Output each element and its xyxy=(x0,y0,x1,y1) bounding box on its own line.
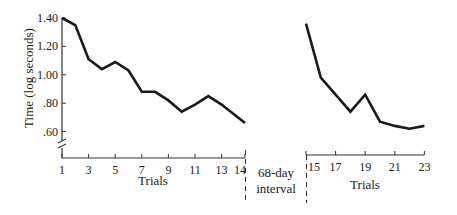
y-tick-label: 1.00 xyxy=(37,68,58,82)
x-tick-label: 23 xyxy=(418,160,430,174)
axis-break-mark xyxy=(58,144,66,148)
data-series xyxy=(62,18,424,129)
x-tick-label: 19 xyxy=(359,160,371,174)
chart: .60.801.001.201.4013579111314 1517192123… xyxy=(0,0,457,215)
x-axis-label-right: Trials xyxy=(350,177,380,192)
series-line-after xyxy=(306,24,424,129)
x-tick-label: 3 xyxy=(86,163,92,177)
x-tick-label: 21 xyxy=(389,160,401,174)
y-tick-label: .80 xyxy=(43,96,58,110)
right-axes: 1517192123 xyxy=(306,151,430,174)
x-tick-label: 1 xyxy=(59,163,65,177)
y-tick-label: 1.20 xyxy=(37,39,58,53)
x-tick-label: 17 xyxy=(330,160,342,174)
series-line-before xyxy=(62,18,245,123)
interval-label-line1: 68-day xyxy=(258,165,295,180)
y-axis-label: Time (log seconds) xyxy=(21,28,36,128)
x-tick-label: 14 xyxy=(234,163,246,177)
x-tick-label: 15 xyxy=(308,160,320,174)
x-tick-label: 11 xyxy=(189,163,201,177)
interval-label-line2: interval xyxy=(256,181,296,196)
left-axes: .60.801.001.201.4013579111314 xyxy=(37,11,246,177)
y-tick-label: .60 xyxy=(43,125,58,139)
x-tick-label: 13 xyxy=(216,163,228,177)
y-tick-label: 1.40 xyxy=(37,11,58,25)
x-axis-label-left: Trials xyxy=(138,173,168,188)
x-tick-label: 5 xyxy=(112,163,118,177)
